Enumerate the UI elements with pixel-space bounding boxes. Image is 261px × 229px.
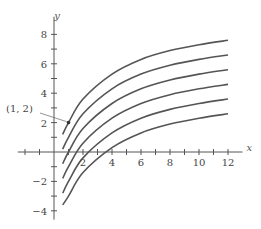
chart: 24681012−4−22468xy(1, 2) bbox=[0, 0, 261, 229]
x-axis-label: x bbox=[247, 142, 253, 153]
highlight-point bbox=[67, 121, 71, 125]
x-tick-label: 4 bbox=[109, 157, 115, 168]
y-tick-label: 8 bbox=[41, 29, 47, 40]
x-tick-label: 2 bbox=[80, 157, 86, 168]
y-tick-label: 4 bbox=[41, 88, 47, 99]
axes bbox=[18, 17, 243, 220]
point-annotation: (1, 2) bbox=[6, 103, 33, 114]
y-tick-label: 2 bbox=[41, 118, 47, 129]
x-tick-label: 10 bbox=[193, 157, 206, 168]
curve bbox=[63, 99, 228, 193]
x-tick-label: 12 bbox=[222, 157, 235, 168]
y-tick-label: −4 bbox=[32, 206, 47, 217]
y-tick-label: −2 bbox=[32, 176, 47, 187]
y-tick-label: 6 bbox=[41, 59, 47, 70]
y-axis-label: y bbox=[53, 10, 60, 21]
x-tick-label: 6 bbox=[138, 157, 144, 168]
curves bbox=[63, 40, 228, 205]
labels: 24681012−4−22468xy(1, 2) bbox=[6, 10, 253, 217]
x-tick-label: 8 bbox=[167, 157, 173, 168]
